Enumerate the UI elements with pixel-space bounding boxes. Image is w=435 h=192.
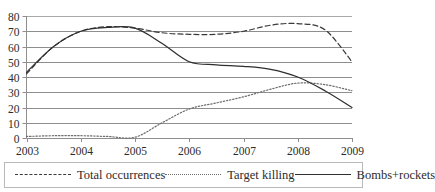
plot-area: 01020304050607080 2003200420052006200720… [0, 0, 367, 155]
x-axis-tick-label: 2008 [287, 145, 310, 155]
y-axis-tick-label: 10 [8, 118, 20, 130]
legend-swatch-dotted-icon [165, 170, 221, 180]
x-axis-tick-label: 2004 [70, 145, 93, 155]
legend-label-total-occurrences: Total occurrences [77, 168, 165, 183]
legend-swatch-solid-icon [295, 170, 351, 180]
x-axis-tick-label: 2006 [178, 145, 201, 155]
legend-item-total-occurrences[interactable]: Total occurrences [15, 168, 165, 183]
y-tick-marks [23, 17, 27, 139]
legend-label-target-killing: Target killing [227, 168, 294, 183]
data-series-group [27, 23, 353, 138]
series-line-target-killing [27, 83, 353, 138]
legend-label-bombs-rockets: Bombs+rockets [357, 168, 435, 183]
y-axis-tick-label: 30 [8, 87, 20, 99]
legend-item-target-killing[interactable]: Target killing [165, 168, 294, 183]
y-axis-tick-label: 70 [8, 26, 20, 38]
legend-swatch-dashed-icon [15, 170, 71, 180]
y-axis-tick-label: 40 [8, 72, 20, 84]
x-axis-tick-label: 2007 [233, 145, 256, 155]
y-axis-tick-label: 0 [14, 133, 20, 145]
legend-item-bombs-rockets[interactable]: Bombs+rockets [295, 168, 435, 183]
x-axis-tick-label: 2003 [16, 145, 39, 155]
y-axis-tick-label: 80 [8, 11, 20, 23]
x-axis-tick-label: 2005 [124, 145, 147, 155]
series-line-bombs-rockets [27, 27, 353, 108]
series-line-total-occurrences [27, 23, 353, 74]
x-axis-tick-labels: 2003200420052006200720082009 [16, 145, 364, 155]
x-axis-tick-label: 2009 [341, 145, 364, 155]
y-axis-tick-labels: 01020304050607080 [8, 11, 20, 145]
y-axis-tick-label: 20 [8, 103, 20, 115]
y-axis-tick-label: 50 [8, 57, 20, 69]
chart-legend: Total occurrences Target killing Bombs+r… [4, 162, 363, 188]
y-axis-tick-label: 60 [8, 42, 20, 54]
chart-canvas: 01020304050607080 2003200420052006200720… [0, 0, 367, 155]
